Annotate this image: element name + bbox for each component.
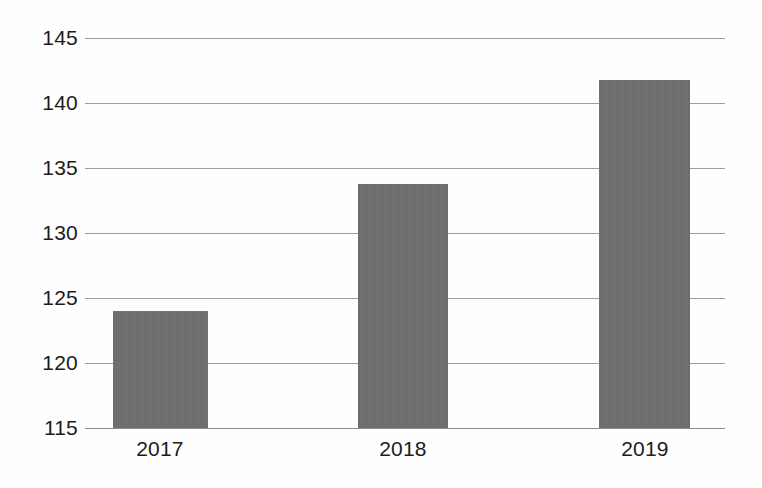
axis-line-x (85, 428, 725, 429)
y-tick-label: 140 (18, 92, 78, 113)
y-tick-label: 125 (18, 287, 78, 308)
x-axis-label-2017: 2017 (110, 437, 210, 461)
bar-2018 (358, 184, 448, 428)
x-axis-label-2018: 2018 (353, 437, 453, 461)
y-tick-label: 115 (18, 417, 78, 438)
plot-area (85, 38, 725, 428)
x-axis-label-2019: 2019 (595, 437, 695, 461)
y-tick-label: 145 (18, 27, 78, 48)
bar-2019 (599, 80, 690, 428)
bar-chart: 145 140 135 130 125 120 115 2017 2018 20… (0, 0, 762, 488)
y-tick-label: 130 (18, 222, 78, 243)
gridline-145 (85, 38, 725, 39)
bar-2017 (113, 311, 208, 428)
y-tick-label: 135 (18, 157, 78, 178)
y-tick-label: 120 (18, 352, 78, 373)
